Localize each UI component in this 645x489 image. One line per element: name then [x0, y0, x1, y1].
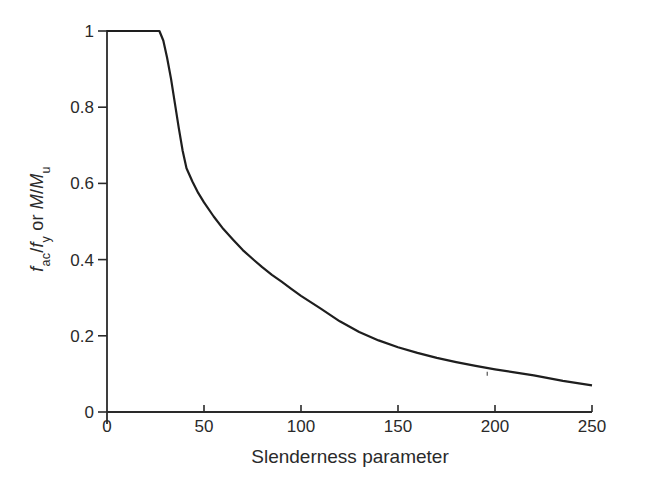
y-axis-title-f2: f — [27, 242, 47, 247]
y-axis-title-m1: M — [27, 194, 47, 209]
y-axis-title-f1: f — [27, 266, 47, 271]
y-tick-label: 0 — [85, 403, 94, 422]
y-axis-title-or: or — [27, 209, 47, 236]
y-tick-label: 0.2 — [70, 327, 94, 346]
x-tick-label: 0 — [102, 417, 111, 436]
y-tick-label: 0.4 — [70, 251, 94, 270]
x-tick-label: 100 — [287, 417, 315, 436]
x-tick-label: 50 — [195, 417, 214, 436]
y-tick-label: 1 — [85, 22, 94, 41]
y-axis-title-sub-y: y — [39, 236, 53, 242]
y-axis-title-sub-u: u — [39, 166, 53, 173]
y-axis-title-slash2: / — [27, 189, 47, 194]
x-axis-title: Slenderness parameter — [251, 446, 449, 468]
buckling-curve-figure: 05010015020025000.20.40.60.81 fac/fy or … — [0, 0, 645, 489]
chart-canvas: 05010015020025000.20.40.60.81 — [0, 0, 645, 489]
y-tick-label: 0.8 — [70, 98, 94, 117]
y-axis-title-m2: M — [27, 174, 47, 189]
y-tick-label: 0.6 — [70, 174, 94, 193]
data-curve — [107, 31, 592, 385]
x-tick-label: 200 — [481, 417, 509, 436]
y-axis-title: fac/fy or M/Mu — [27, 166, 51, 271]
x-tick-label: 150 — [384, 417, 412, 436]
y-axis-title-sub-ac: ac — [39, 253, 53, 267]
x-tick-label: 250 — [578, 417, 606, 436]
